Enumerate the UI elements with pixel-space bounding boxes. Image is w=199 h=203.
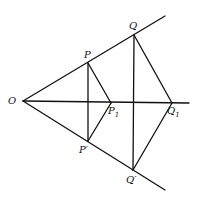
label-q-prime: Q′ — [126, 174, 137, 185]
label-p-prime: P′ — [78, 144, 89, 155]
label-q: Q — [129, 20, 137, 31]
label-p1-sub: 1 — [115, 111, 119, 119]
segment-q-q1 — [134, 35, 172, 103]
axis-line — [23, 101, 189, 103]
diagram-canvas: O P Q P1 Q1 P′ Q′ — [0, 0, 199, 203]
label-o: O — [8, 95, 16, 106]
segment-p-p1 — [88, 63, 111, 103]
upper-ray — [23, 16, 165, 101]
label-q1: Q1 — [167, 105, 180, 119]
label-p1: P1 — [107, 105, 119, 119]
reflection-diagram: O P Q P1 Q1 P′ Q′ — [0, 0, 199, 203]
label-q1-base: Q — [167, 105, 175, 116]
label-q1-sub: 1 — [175, 111, 179, 119]
label-p: P — [83, 49, 91, 60]
segment-q-qprime — [133, 35, 134, 170]
lower-ray — [23, 101, 165, 190]
